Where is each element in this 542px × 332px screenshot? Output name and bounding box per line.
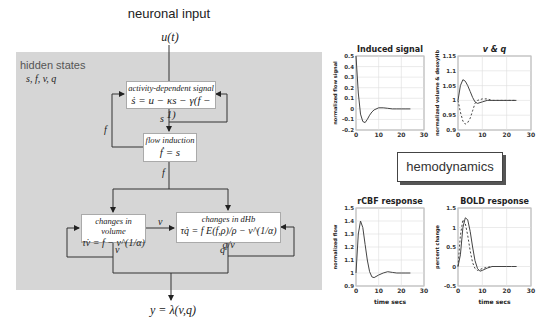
- chart-v-and-q: 01020300.90.9511.051.11.15v & qnormalize…: [432, 44, 537, 144]
- chart-svg: 0102030-0.2-0.100.10.20.30.40.5Induced s…: [330, 44, 430, 144]
- svg-text:0.4: 0.4: [344, 64, 354, 70]
- activity-equation: ṡ = u − κs − γ(f − 1): [127, 93, 215, 121]
- chart-rcbf-response: 01020300.911.11.21.31.41.5rCBF responset…: [330, 196, 430, 308]
- svg-text:1.4: 1.4: [344, 218, 354, 224]
- svg-text:1.1: 1.1: [446, 68, 456, 74]
- svg-text:BOLD response: BOLD response: [460, 197, 529, 206]
- svg-text:30: 30: [420, 131, 428, 138]
- svg-text:time secs: time secs: [478, 298, 511, 305]
- dhb-node: changes in dHb τq̇ = f E(f,ρ)/ρ − v^(1/α…: [176, 212, 281, 243]
- svg-text:-0.1: -0.1: [342, 116, 354, 122]
- svg-text:-0.2: -0.2: [342, 127, 354, 133]
- svg-text:v & q: v & q: [483, 45, 507, 54]
- svg-text:normalized flow signal: normalized flow signal: [332, 61, 339, 125]
- svg-text:1: 1: [452, 97, 456, 103]
- svg-text:-0.5: -0.5: [444, 283, 456, 289]
- edge-label-v-out: v: [115, 244, 119, 255]
- activity-caption: activity-dependent signal: [127, 83, 215, 93]
- svg-text:20: 20: [397, 131, 405, 138]
- edge-label-f-feedback: f: [104, 124, 107, 135]
- svg-text:0.2: 0.2: [344, 85, 354, 91]
- activity-signal-node: activity-dependent signal ṡ = u − κs − γ…: [126, 81, 216, 109]
- flow-equation: ḟ = s: [144, 145, 196, 159]
- flow-caption: flow induction: [144, 135, 196, 145]
- svg-text:0: 0: [456, 287, 460, 294]
- svg-text:20: 20: [502, 287, 510, 294]
- chart-induced-signal: 0102030-0.2-0.100.10.20.30.40.5Induced s…: [330, 44, 430, 144]
- svg-text:0.9: 0.9: [344, 283, 354, 289]
- svg-text:percent change: percent change: [434, 224, 441, 269]
- svg-text:10: 10: [374, 287, 382, 294]
- volume-caption: changes in volume: [82, 216, 145, 236]
- svg-text:1.15: 1.15: [442, 53, 456, 59]
- svg-text:20: 20: [397, 287, 405, 294]
- svg-text:0.3: 0.3: [344, 74, 354, 80]
- svg-text:1.3: 1.3: [344, 231, 354, 237]
- dhb-caption: changes in dHb: [177, 214, 280, 224]
- svg-text:Induced signal: Induced signal: [357, 45, 423, 54]
- chart-svg: 0102030-0.500.511.5BOLD responsetime sec…: [432, 196, 537, 308]
- edge-label-q-out: q: [220, 244, 225, 255]
- svg-text:1.2: 1.2: [344, 244, 354, 250]
- svg-text:0.1: 0.1: [344, 95, 354, 101]
- svg-text:0.5: 0.5: [344, 53, 354, 59]
- svg-text:1: 1: [452, 225, 456, 231]
- svg-text:normalized volume & deoxyHb: normalized volume & deoxyHb: [434, 50, 441, 137]
- svg-text:10: 10: [478, 131, 486, 138]
- svg-text:0: 0: [350, 106, 354, 112]
- svg-text:30: 30: [527, 287, 535, 294]
- svg-text:1.1: 1.1: [344, 257, 354, 263]
- hemodynamics-label: hemodynamics: [397, 152, 503, 182]
- chart-svg: 01020300.90.9511.051.11.15v & qnormalize…: [432, 44, 537, 144]
- svg-text:20: 20: [502, 131, 510, 138]
- svg-text:normalized flow: normalized flow: [332, 224, 338, 269]
- chart-svg: 01020300.911.11.21.31.41.5rCBF responset…: [330, 196, 430, 308]
- svg-text:30: 30: [527, 131, 535, 138]
- svg-text:1.5: 1.5: [446, 205, 456, 211]
- svg-text:0: 0: [452, 264, 456, 270]
- svg-text:0.9: 0.9: [446, 127, 456, 133]
- flow-induction-node: flow induction ḟ = s: [143, 133, 197, 162]
- edge-label-f-out: f: [162, 167, 165, 178]
- chart-bold-response: 0102030-0.500.511.5BOLD responsetime sec…: [432, 196, 537, 308]
- svg-text:0: 0: [354, 131, 358, 138]
- svg-text:time secs: time secs: [374, 298, 407, 305]
- svg-text:10: 10: [478, 287, 486, 294]
- svg-text:1: 1: [350, 270, 354, 276]
- svg-text:1.05: 1.05: [442, 83, 456, 89]
- svg-text:0: 0: [354, 287, 358, 294]
- svg-text:rCBF response: rCBF response: [357, 197, 423, 206]
- svg-text:0.95: 0.95: [442, 112, 456, 118]
- volume-equation: τv̇ = f − v^(1/α): [82, 236, 145, 250]
- svg-text:30: 30: [420, 287, 428, 294]
- svg-text:10: 10: [374, 131, 382, 138]
- svg-text:0.5: 0.5: [446, 244, 456, 250]
- edge-label-s: s: [160, 113, 164, 124]
- svg-text:1.5: 1.5: [344, 205, 354, 211]
- dhb-equation: τq̇ = f E(f,ρ)/ρ − v^(1/α) q/v: [177, 224, 280, 252]
- volume-node: changes in volume τv̇ = f − v^(1/α): [81, 214, 146, 243]
- svg-text:0: 0: [456, 131, 460, 138]
- output-equation: y = λ(v,q): [140, 303, 206, 318]
- edge-label-v-to-q: v: [158, 216, 162, 227]
